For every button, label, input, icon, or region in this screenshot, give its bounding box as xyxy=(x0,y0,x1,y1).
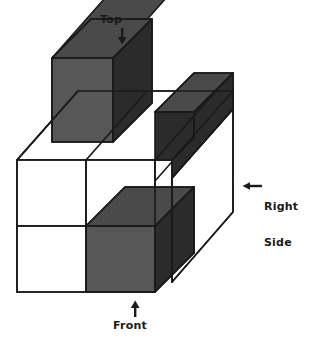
label-front: Front xyxy=(113,320,147,332)
arrow-left-icon xyxy=(243,182,263,189)
arrow-up-icon xyxy=(131,301,140,318)
cube-diagram-svg xyxy=(0,0,316,341)
cube-diagram: Top Front Right Side xyxy=(0,0,316,341)
label-right-side: Right Side xyxy=(264,177,298,273)
label-top: Top xyxy=(100,14,122,26)
cube-face-white-front-lower-left xyxy=(17,226,86,292)
cube-face-shaded-front-front xyxy=(86,226,155,292)
label-right-side-line1: Right xyxy=(264,201,298,213)
cube-face-shaded-topleft-front xyxy=(52,58,113,142)
label-right-side-line2: Side xyxy=(264,237,298,249)
cube-face-white-front-upper-left xyxy=(17,160,86,226)
